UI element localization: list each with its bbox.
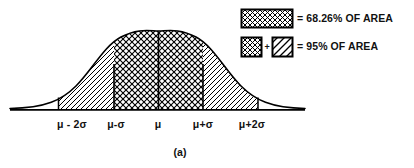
axis-label-mu-plus-sigma: μ+σ (193, 118, 213, 130)
legend-swatch-crosshatch-wide (242, 10, 293, 28)
axis-label-mu: μ (155, 118, 162, 130)
axis-label-mu-minus-2sigma: μ - 2σ (57, 118, 87, 130)
legend-swatch-crosshatch-small (242, 38, 262, 57)
legend-label-68-percent: = 68.26% OF AREA (297, 12, 393, 24)
distribution-chart (0, 0, 414, 168)
axis-label-mu-minus-sigma: μ-σ (107, 118, 125, 130)
legend-plus-operator: + (265, 42, 270, 52)
figure-caption: (a) (174, 146, 187, 158)
legend-swatch-diagonal-small (273, 38, 293, 57)
normal-distribution-figure: μ - 2σ μ-σ μ μ+σ μ+2σ = 68.26% OF AREA +… (0, 0, 414, 168)
legend-label-95-percent: = 95% OF AREA (297, 40, 378, 52)
axis-label-mu-plus-2sigma: μ+2σ (239, 118, 265, 130)
